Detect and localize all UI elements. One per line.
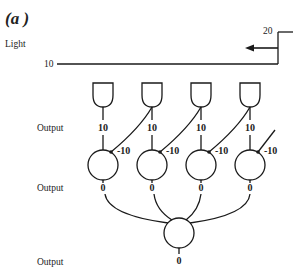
receptor-output-value: 10 xyxy=(196,122,206,133)
neuron-3: -10 0 xyxy=(186,145,228,193)
neuron-circle-icon xyxy=(235,150,265,180)
receptor-cup-icon xyxy=(191,83,211,107)
receptor-cup-icon xyxy=(240,83,260,107)
inhibition-value: -10 xyxy=(215,145,228,156)
receptor-output-value: 10 xyxy=(98,122,108,133)
neuron-output-value: 0 xyxy=(199,182,204,193)
neuron-output-value: 0 xyxy=(150,182,155,193)
receptor-output-value: 10 xyxy=(245,122,255,133)
inhibition-value: -10 xyxy=(117,145,130,156)
row-label-receptor-output: Output xyxy=(37,123,64,133)
final-output-value: 0 xyxy=(177,255,182,266)
receptor-3: 10 xyxy=(191,83,211,150)
neuron-4: -10 0 xyxy=(235,145,277,193)
neuron-output-value: 0 xyxy=(101,182,106,193)
neuron-1: -10 0 xyxy=(88,145,130,193)
arrow-left-icon xyxy=(245,45,254,52)
receptor-2: 10 xyxy=(142,83,162,150)
receptor-4: 10 xyxy=(240,83,260,150)
row-label-final-output: Output xyxy=(37,257,64,267)
receptor-cup-icon xyxy=(93,83,113,107)
neuron-2: -10 0 xyxy=(137,145,179,193)
light-level-left: 10 xyxy=(44,59,54,69)
light-step-line: 10 20 xyxy=(44,26,293,69)
inhibition-value: -10 xyxy=(264,145,277,156)
neuron-circle-icon xyxy=(137,150,167,180)
neuron-circle-icon xyxy=(164,218,194,248)
light-label: Light xyxy=(5,39,26,49)
neuron-circle-icon xyxy=(88,150,118,180)
panel-label: (a ) xyxy=(5,9,29,28)
neuron-circle-icon xyxy=(186,150,216,180)
inhibition-value: -10 xyxy=(166,145,179,156)
receptor-cup-icon xyxy=(142,83,162,107)
lateral-inhibition-diagram: (a ) Light 10 20 Output Output Output 10… xyxy=(0,0,293,277)
row-label-layer1-output: Output xyxy=(37,183,64,193)
receptor-output-value: 10 xyxy=(147,122,157,133)
neuron-output-value: 0 xyxy=(248,182,253,193)
receptor-1: 10 xyxy=(93,83,113,150)
final-neuron: 0 xyxy=(164,218,194,266)
light-level-right: 20 xyxy=(263,26,273,36)
